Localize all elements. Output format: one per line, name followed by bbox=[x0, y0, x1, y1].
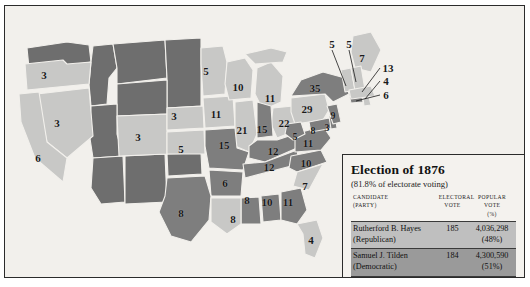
ev-label-wisconsin: 10 bbox=[233, 82, 244, 93]
ev-label-california: 6 bbox=[35, 153, 41, 164]
ev-label-ohio: 22 bbox=[279, 118, 290, 129]
tilden-name: Samuel J. Tilden bbox=[353, 251, 408, 260]
ev-label-massachusetts: 13 bbox=[383, 63, 394, 74]
ev-label-arkansas: 6 bbox=[222, 178, 228, 189]
ev-label-rhode-island: 4 bbox=[383, 76, 389, 87]
ev-label-kentucky: 12 bbox=[268, 146, 279, 157]
results-header-row: CANDIDATE (PARTY) ELECTORAL VOTE POPULAR… bbox=[351, 193, 516, 221]
ev-label-maine: 7 bbox=[359, 53, 365, 64]
state-louisiana bbox=[211, 198, 241, 234]
hayes-candidate-cell: Rutherford B. Hayes (Republican) bbox=[351, 221, 437, 249]
ev-label-new-jersey: 9 bbox=[331, 111, 336, 121]
header-candidate-line2: (PARTY) bbox=[353, 201, 435, 209]
header-electoral-line2: VOTE bbox=[439, 201, 466, 209]
legend-title: Election of 1876 bbox=[351, 162, 516, 178]
ev-label-nebraska: 3 bbox=[171, 111, 177, 122]
ev-label-louisiana: 8 bbox=[230, 214, 236, 225]
ev-label-mississippi: 8 bbox=[244, 195, 250, 206]
ev-label-new-hampshire: 5 bbox=[346, 39, 352, 50]
header-popular-line2: (%) bbox=[470, 210, 514, 218]
ev-label-missouri: 15 bbox=[219, 140, 230, 151]
ev-label-indiana: 15 bbox=[257, 124, 268, 135]
state-wyoming-territory bbox=[117, 80, 167, 116]
results-legend: Election of 1876 (81.8% of electorate vo… bbox=[342, 154, 524, 277]
header-popular-vote: POPULAR VOTE (%) bbox=[468, 193, 516, 221]
ev-label-texas: 8 bbox=[178, 208, 184, 219]
header-candidate: CANDIDATE (PARTY) bbox=[351, 193, 437, 221]
results-table: CANDIDATE (PARTY) ELECTORAL VOTE POPULAR… bbox=[351, 193, 516, 277]
state-wisconsin bbox=[225, 58, 253, 100]
ev-label-michigan: 11 bbox=[265, 93, 275, 104]
state-colorado bbox=[117, 114, 167, 156]
ev-label-nevada: 3 bbox=[54, 118, 60, 129]
state-maine bbox=[351, 32, 381, 72]
ev-label-iowa: 11 bbox=[211, 109, 221, 120]
ev-label-minnesota: 5 bbox=[203, 66, 209, 77]
ev-label-new-york: 35 bbox=[310, 83, 321, 94]
state-idaho-territory bbox=[89, 44, 117, 106]
tilden-electoral-vote: 184 bbox=[437, 249, 468, 277]
state-texas bbox=[159, 176, 211, 242]
hayes-party: (Republican) bbox=[353, 235, 435, 246]
state-michigan-upper bbox=[245, 48, 287, 64]
state-kansas bbox=[167, 130, 205, 154]
tilden-popular-pct: (51%) bbox=[470, 262, 514, 273]
state-indian-territory bbox=[167, 153, 202, 176]
legend-subtitle: (81.8% of electorate voting) bbox=[351, 179, 516, 189]
header-candidate-line1: CANDIDATE bbox=[353, 194, 388, 200]
ev-label-north-carolina: 10 bbox=[301, 158, 312, 169]
ev-label-connecticut: 6 bbox=[383, 90, 389, 101]
ev-label-vermont: 5 bbox=[329, 39, 335, 50]
election-map-figure: 3 3 6 3 3 5 5 11 15 6 8 8 10 21 11 15 22… bbox=[0, 0, 530, 287]
results-row-tilden: Samuel J. Tilden (Democratic) 184 4,300,… bbox=[351, 249, 516, 277]
state-montana-territory bbox=[113, 40, 167, 84]
ev-label-pennsylvania: 29 bbox=[302, 104, 313, 115]
header-popular-line1: POPULAR VOTE bbox=[478, 194, 506, 208]
ev-label-tennessee: 12 bbox=[264, 162, 275, 173]
hayes-electoral-vote: 185 bbox=[437, 221, 468, 249]
header-electoral-line1: ELECTORAL bbox=[439, 194, 475, 200]
ev-label-oregon: 3 bbox=[41, 70, 47, 81]
hayes-popular-pct: (48%) bbox=[470, 235, 514, 246]
ev-label-kansas: 5 bbox=[178, 144, 184, 155]
tilden-party: (Democratic) bbox=[353, 262, 435, 273]
state-new-mexico-territory bbox=[125, 154, 167, 204]
ev-label-illinois: 21 bbox=[237, 125, 248, 136]
ev-label-florida: 4 bbox=[308, 235, 314, 246]
ev-label-maryland: 8 bbox=[311, 126, 316, 136]
map-plate: 3 3 6 3 3 5 5 11 15 6 8 8 10 21 11 15 22… bbox=[4, 5, 525, 278]
ev-label-south-carolina: 7 bbox=[302, 181, 308, 192]
ev-label-west-virginia: 5 bbox=[293, 132, 298, 142]
tilden-popular-vote-cell: 4,300,590 (51%) bbox=[468, 249, 516, 277]
results-row-hayes: Rutherford B. Hayes (Republican) 185 4,0… bbox=[351, 221, 516, 249]
state-dakota-territory bbox=[165, 38, 201, 108]
state-oregon bbox=[25, 60, 91, 90]
tilden-popular-vote: 4,300,590 bbox=[476, 251, 509, 260]
ev-label-alabama: 10 bbox=[262, 197, 273, 208]
hayes-popular-vote: 4,036,298 bbox=[476, 224, 509, 233]
ev-label-colorado: 3 bbox=[135, 132, 141, 143]
header-electoral-vote: ELECTORAL VOTE bbox=[437, 193, 468, 221]
state-arizona-territory bbox=[91, 156, 125, 204]
ev-label-georgia: 11 bbox=[283, 197, 293, 208]
hayes-popular-vote-cell: 4,036,298 (48%) bbox=[468, 221, 516, 249]
tilden-candidate-cell: Samuel J. Tilden (Democratic) bbox=[351, 249, 437, 277]
hayes-name: Rutherford B. Hayes bbox=[353, 224, 421, 233]
ev-label-delaware: 3 bbox=[325, 123, 330, 133]
ev-label-virginia: 11 bbox=[303, 138, 313, 149]
